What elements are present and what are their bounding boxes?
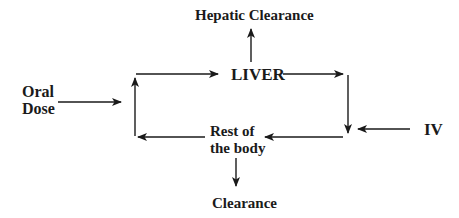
flow-diagram xyxy=(0,0,459,218)
liver-label: LIVER xyxy=(231,66,285,84)
hepatic-clearance-label: Hepatic Clearance xyxy=(195,8,314,24)
iv-label: IV xyxy=(424,121,443,139)
clearance-label: Clearance xyxy=(212,196,277,212)
rest-of-body-label-line1: Rest of xyxy=(210,124,255,140)
rest-of-body-label-line2: the body xyxy=(210,141,265,157)
oral-dose-label-line2: Dose xyxy=(22,101,55,118)
oral-dose-label-line1: Oral xyxy=(22,84,54,101)
